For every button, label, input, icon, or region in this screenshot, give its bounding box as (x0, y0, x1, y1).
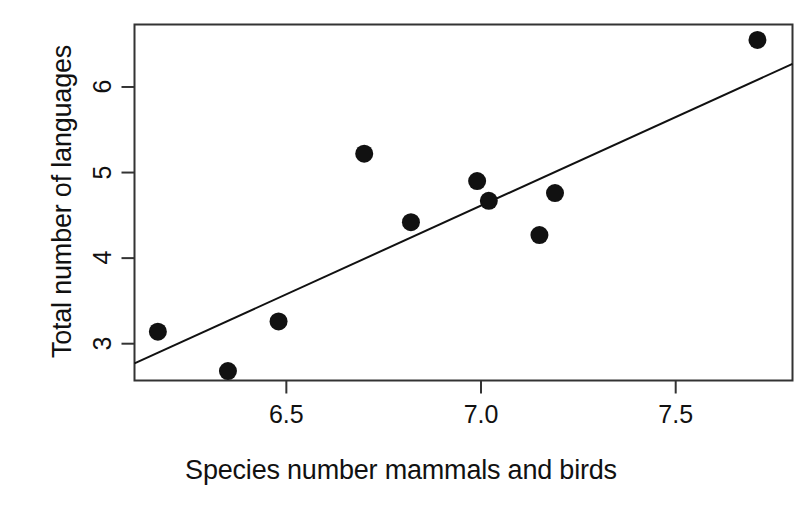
data-point (149, 323, 167, 341)
y-axis-tick-marks (122, 87, 135, 344)
x-axis-tick-marks (286, 381, 675, 394)
data-point (480, 192, 498, 210)
x-tick-label: 7.0 (441, 402, 521, 427)
regression-line-segment (135, 64, 793, 364)
data-point (546, 184, 564, 202)
y-tick-label: 6 (89, 66, 114, 106)
scatter-plot-figure: 3456 6.57.07.5 Total number of languages… (0, 0, 802, 505)
regression-line (135, 64, 793, 364)
plot-frame-box (135, 25, 793, 381)
y-tick-label: 4 (89, 238, 114, 278)
data-point (219, 362, 237, 380)
data-point (468, 172, 486, 190)
x-tick-label: 7.5 (636, 402, 716, 427)
y-axis-title: Total number of languages (47, 22, 78, 382)
scatter-points (149, 31, 767, 380)
y-tick-label: 3 (89, 323, 114, 363)
data-point (530, 226, 548, 244)
data-point (270, 312, 288, 330)
data-point (748, 31, 766, 49)
x-axis-title: Species number mammals and birds (0, 455, 802, 486)
x-tick-label: 6.5 (246, 402, 326, 427)
data-point (355, 145, 373, 163)
data-point (402, 213, 420, 231)
plot-canvas (0, 0, 802, 505)
y-tick-label: 5 (89, 152, 114, 192)
